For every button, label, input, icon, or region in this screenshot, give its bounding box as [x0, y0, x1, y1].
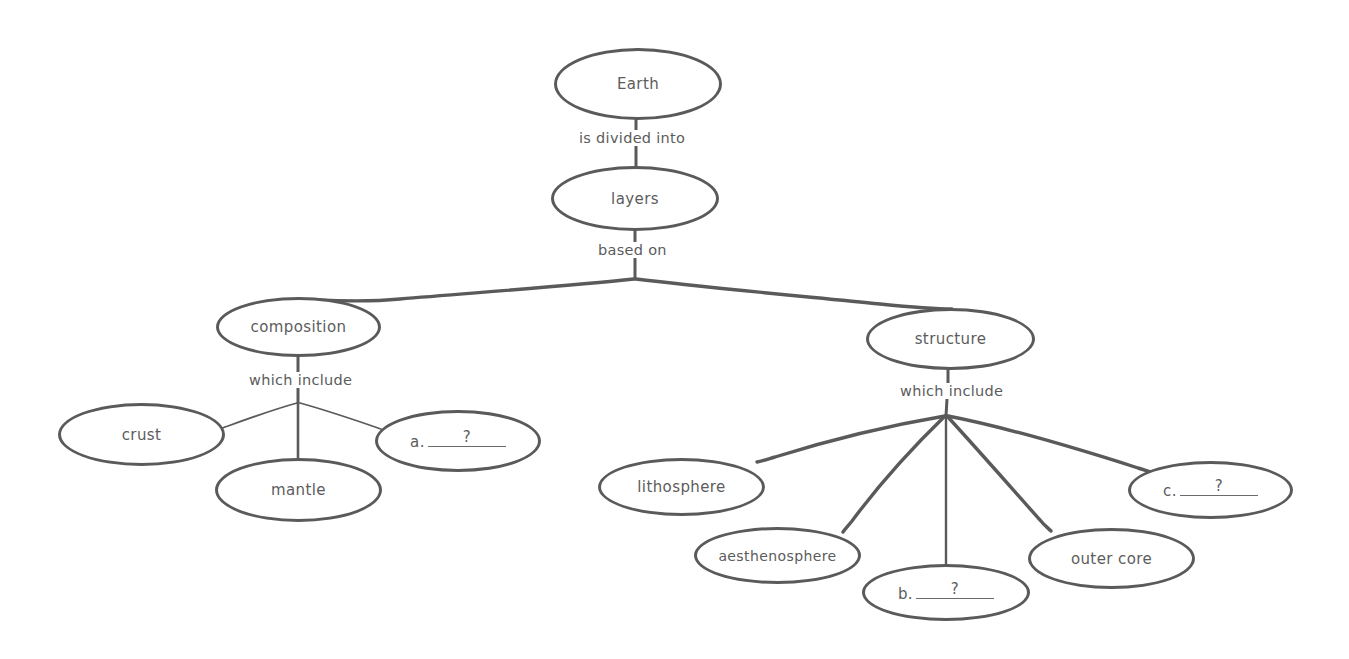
node-blank-b[interactable]: b. ?: [862, 564, 1030, 621]
node-composition-label: composition: [251, 318, 347, 336]
node-outer-core[interactable]: outer core: [1028, 528, 1195, 589]
edge-label-which-include-composition-text: which include: [249, 372, 352, 388]
blank-a-answer-line[interactable]: ?: [428, 431, 506, 447]
edge-composition-to-crust: [214, 403, 297, 431]
node-crust-label: crust: [122, 426, 162, 444]
concept-map-canvas: Earth layers composition structure crust…: [0, 0, 1349, 659]
edge-composition-to-blank-a: [300, 403, 392, 434]
node-structure[interactable]: structure: [866, 308, 1035, 370]
node-aesthenosphere[interactable]: aesthenosphere: [694, 527, 861, 584]
node-structure-label: structure: [915, 330, 987, 348]
node-composition[interactable]: composition: [216, 297, 381, 357]
node-blank-a-label: a. ?: [410, 431, 506, 451]
edge-label-which-include-structure-text: which include: [900, 383, 1003, 399]
blank-c-question-mark: ?: [1215, 479, 1223, 494]
blank-c-answer-line[interactable]: ?: [1180, 480, 1258, 496]
edge-label-is-divided-into-text: is divided into: [579, 130, 685, 146]
node-lithosphere[interactable]: lithosphere: [598, 458, 765, 516]
node-earth[interactable]: Earth: [554, 48, 722, 120]
node-crust[interactable]: crust: [58, 403, 225, 466]
node-mantle[interactable]: mantle: [215, 458, 382, 522]
edge-label-which-include-structure: which include: [896, 383, 1007, 399]
node-earth-label: Earth: [617, 75, 659, 93]
blank-a-letter: a.: [410, 433, 425, 451]
blank-b-letter: b.: [898, 585, 913, 603]
blank-a-question-mark: ?: [463, 430, 471, 445]
node-outer-core-label: outer core: [1071, 550, 1152, 568]
edge-label-which-include-composition: which include: [245, 372, 356, 388]
node-mantle-label: mantle: [271, 481, 326, 499]
blank-b-answer-line[interactable]: ?: [916, 583, 994, 599]
blank-c-letter: c.: [1163, 482, 1177, 500]
edge-label-is-divided-into: is divided into: [575, 130, 689, 146]
node-blank-c[interactable]: c. ?: [1128, 461, 1293, 519]
node-blank-a[interactable]: a. ?: [375, 410, 541, 472]
node-blank-c-label: c. ?: [1163, 480, 1258, 500]
edge-structure-to-blank-c: [948, 416, 1154, 473]
node-blank-b-label: b. ?: [898, 583, 994, 603]
blank-b-question-mark: ?: [951, 582, 959, 597]
edge-label-to-structure-fan: [946, 399, 947, 416]
edge-structure-to-outer-core: [947, 416, 1051, 531]
edge-label-based-on: based on: [594, 242, 671, 258]
edge-fan-to-structure: [636, 279, 952, 309]
edge-fan-to-composition: [318, 279, 634, 301]
node-layers[interactable]: layers: [551, 166, 719, 231]
node-aesthenosphere-label: aesthenosphere: [718, 548, 836, 564]
node-layers-label: layers: [611, 190, 659, 208]
edge-structure-to-lithosphere: [757, 416, 945, 462]
edge-label-based-on-text: based on: [598, 242, 667, 258]
node-lithosphere-label: lithosphere: [637, 478, 725, 496]
